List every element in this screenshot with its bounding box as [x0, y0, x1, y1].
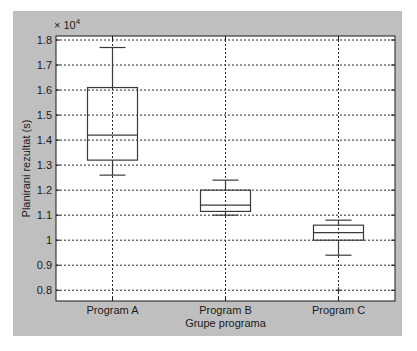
- x-tick-label: Program C: [312, 304, 365, 316]
- x-tick-label: Program A: [87, 304, 140, 316]
- y-tick-label: 1.6: [37, 84, 52, 96]
- y-tick-label: 0.8: [37, 284, 52, 296]
- y-tick-label: 1.3: [37, 159, 52, 171]
- y-exponent-power: 4: [76, 17, 81, 26]
- y-exponent-label: × 104: [54, 17, 81, 31]
- y-tick-label: 1.5: [37, 109, 52, 121]
- y-tick-label: 1: [46, 234, 52, 246]
- y-axis-label: Planirani rezultat (s): [20, 120, 32, 218]
- x-axis-label: Grupe programa: [185, 317, 267, 329]
- boxplot-chart: 0.80.911.11.21.31.41.51.61.71.8 Program …: [0, 0, 417, 351]
- y-tick-label: 1.1: [37, 209, 52, 221]
- y-tick-label: 0.9: [37, 259, 52, 271]
- y-tick-label: 1.8: [37, 34, 52, 46]
- y-tick-label: 1.4: [37, 134, 52, 146]
- x-tick-label: Program B: [199, 304, 252, 316]
- y-tick-label: 1.7: [37, 59, 52, 71]
- y-exponent-base: × 10: [54, 19, 76, 31]
- y-tick-label: 1.2: [37, 184, 52, 196]
